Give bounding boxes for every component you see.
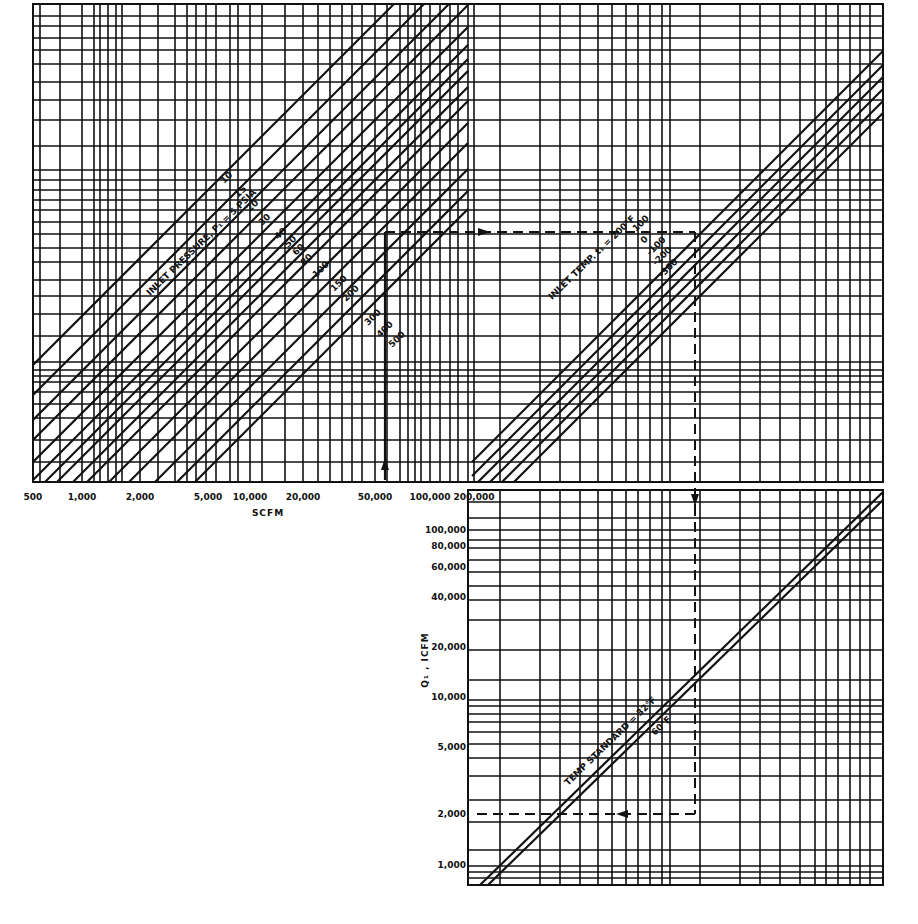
x-tick: 20,000 [286,492,321,502]
x-tick: 200,000 [454,492,495,502]
x-tick: 2,000 [126,492,154,502]
x-tick: 50,000 [358,492,393,502]
x-tick: 500 [24,492,43,502]
x-axis-label: SCFM [252,508,284,518]
y-tick: 10,000 [431,692,466,702]
chart-canvas: 500 1,000 2,000 5,000 10,000 20,000 50,0… [0,0,918,924]
y-tick: 40,000 [431,592,466,602]
x-tick: 100,000 [410,492,451,502]
y-tick: 2,000 [438,809,466,819]
y-tick: 80,000 [431,541,466,551]
y-axis-label: Q₁ , ICFM [420,632,430,687]
y-tick: 1,000 [438,860,466,870]
y-tick: 20,000 [431,642,466,652]
y-tick: 5,000 [438,742,466,752]
x-tick: 1,000 [68,492,96,502]
nomograph-chart: 500 1,000 2,000 5,000 10,000 20,000 50,0… [0,0,918,924]
y-tick: 100,000 [425,525,466,535]
x-tick: 10,000 [233,492,268,502]
x-tick: 5,000 [194,492,222,502]
y-tick: 60,000 [431,562,466,572]
